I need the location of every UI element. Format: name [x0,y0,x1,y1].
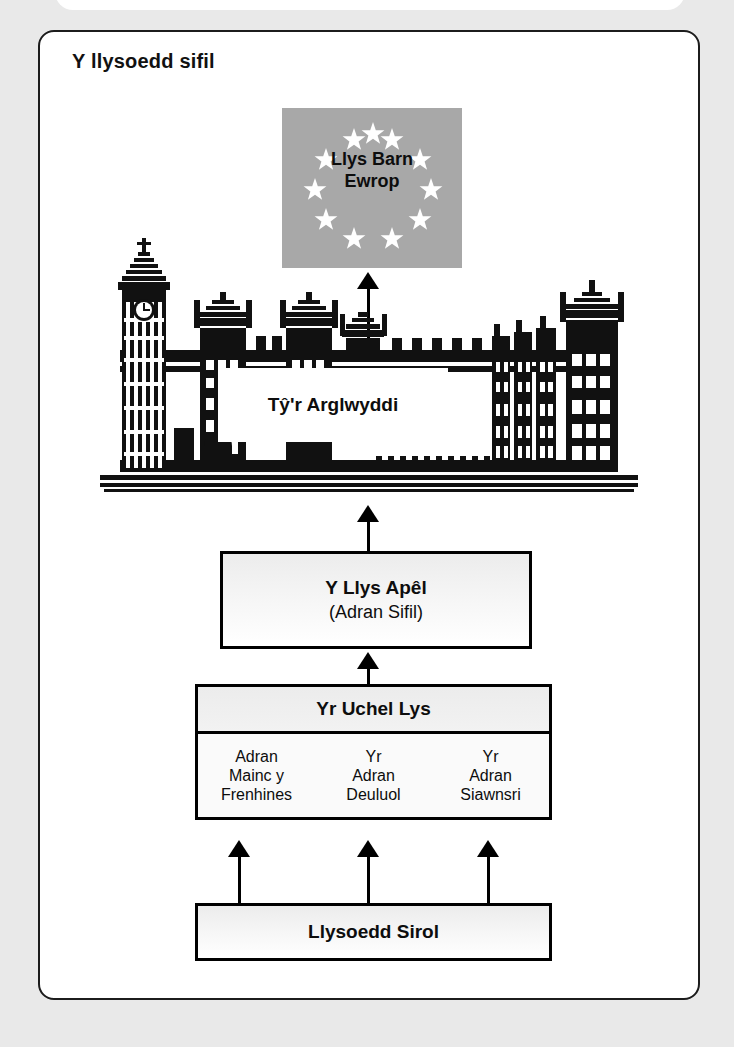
division-line: Frenhines [221,785,292,804]
court-of-appeal-title: Y Llys Apêl [325,577,426,599]
high-court-division-family[interactable]: Yr Adran Deuluol [315,734,432,817]
connector-highcourt-to-appeal [367,668,370,684]
node-house-of-lords[interactable] [96,232,642,500]
european-court-label-line2: Ewrop [282,170,462,192]
node-county-courts[interactable]: Llysoedd Sirol [195,903,552,961]
page-edge-artifact [55,0,685,10]
high-court-title: Yr Uchel Lys [198,687,549,734]
division-line: Mainc y [229,766,284,785]
connector-county-to-family [367,857,370,903]
high-court-divisions: Adran Mainc y Frenhines Yr Adran Deuluol… [198,734,549,817]
houses-of-parliament-icon [96,232,642,500]
house-of-lords-label: Tŷ'r Arglwyddi [218,368,448,442]
connector-appeal-to-lords [367,520,370,551]
high-court-division-qb[interactable]: Adran Mainc y Frenhines [198,734,315,817]
division-line: Yr [483,747,499,766]
arrow-county-to-family [357,840,379,857]
arrow-appeal-to-lords [357,505,379,522]
county-courts-label: Llysoedd Sirol [308,921,439,943]
high-court-division-chancery[interactable]: Yr Adran Siawnsri [432,734,549,817]
division-line: Siawnsri [460,785,520,804]
division-line: Yr [366,747,382,766]
division-line: Deuluol [346,785,400,804]
node-high-court[interactable]: Yr Uchel Lys Adran Mainc y Frenhines Yr … [195,684,552,820]
division-line: Adran [235,747,278,766]
arrow-county-to-qb [228,840,250,857]
division-line: Adran [469,766,512,785]
court-of-appeal-subtitle: (Adran Sifil) [329,602,423,623]
connector-county-to-chancery [487,857,490,903]
european-court-label: Llys Barn Ewrop [282,148,462,192]
european-court-label-line1: Llys Barn [282,148,462,170]
page-title: Y llysoedd sifil [72,50,215,73]
connector-county-to-qb [238,857,241,903]
arrow-county-to-chancery [477,840,499,857]
node-court-of-appeal[interactable]: Y Llys Apêl (Adran Sifil) [220,551,532,649]
division-line: Adran [352,766,395,785]
arrow-highcourt-to-appeal [357,652,379,669]
